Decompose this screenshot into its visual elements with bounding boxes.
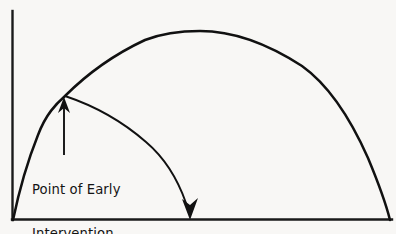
branch-arrowhead-icon	[182, 198, 198, 220]
intervention-label: Point of Early Intervention	[32, 154, 121, 234]
figure-canvas: Point of Early Intervention	[0, 0, 396, 234]
intervention-label-line-2: Intervention	[32, 227, 121, 234]
intervention-label-line-1: Point of Early	[32, 183, 121, 198]
